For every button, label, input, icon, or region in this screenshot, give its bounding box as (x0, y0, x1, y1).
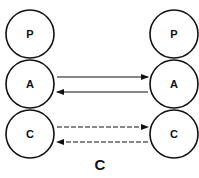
left-a-label: A (26, 78, 34, 90)
left-stack: P A C (6, 10, 54, 158)
right-stack: P A C (150, 10, 198, 158)
right-c-label: C (170, 128, 178, 140)
diagram-caption: C (95, 156, 106, 173)
right-a-label: A (170, 78, 178, 90)
ego-state-diagram: P A C P A C C (0, 0, 199, 178)
right-p-label: P (170, 28, 177, 40)
left-c-label: C (26, 128, 34, 140)
left-p-label: P (26, 28, 33, 40)
